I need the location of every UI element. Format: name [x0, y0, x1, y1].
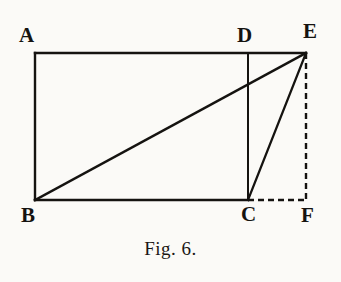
vertex-label-a: A	[19, 25, 34, 46]
segment-B-E	[35, 53, 306, 200]
segment-C-E	[248, 53, 306, 200]
vertex-label-c: C	[241, 204, 256, 225]
vertex-label-f: F	[301, 205, 314, 226]
figure-container: A D E B C F Fig. 6.	[0, 0, 341, 282]
vertex-label-e: E	[303, 21, 317, 42]
figure-caption: Fig. 6.	[0, 238, 341, 260]
vertex-label-b: B	[21, 205, 35, 226]
vertex-label-d: D	[237, 25, 252, 46]
